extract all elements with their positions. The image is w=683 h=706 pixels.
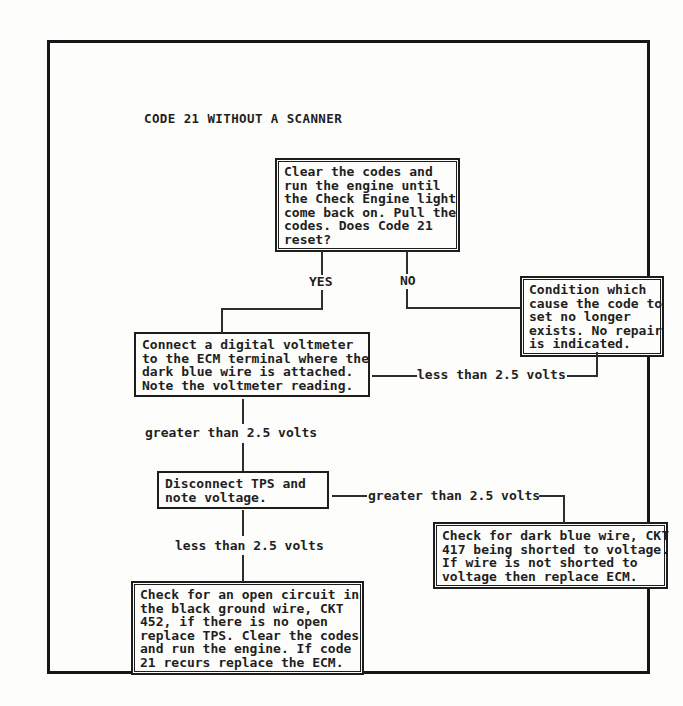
connector-greater1-segment-2	[242, 443, 244, 471]
edge-label-less-than-2: less than 2.5 volts	[175, 539, 324, 553]
connector-no-segment-2	[406, 289, 408, 309]
flow-box-disconnect-tps: Disconnect TPS and note voltage.	[157, 471, 329, 509]
connector-no-segment-1	[406, 251, 408, 274]
diagram-title: CODE 21 WITHOUT A SCANNER	[144, 111, 342, 126]
connector-greater2-segment-2	[539, 495, 565, 497]
flow-box-no-repair: Condition which cause the code to set no…	[520, 276, 664, 357]
connector-less1-segment-3	[596, 352, 598, 377]
flow-box-no-repair-text: Condition which cause the code to set no…	[522, 278, 662, 355]
flow-box-voltmeter-text: Connect a digital voltmeter to the ECM t…	[136, 334, 368, 395]
page-frame: CODE 21 WITHOUT A SCANNER Clear the code…	[47, 40, 650, 674]
edge-label-less-than-1: less than 2.5 volts	[417, 368, 566, 382]
connector-greater1-segment-1	[242, 399, 244, 424]
flow-box-start: Clear the codes and run the engine until…	[275, 158, 460, 252]
edge-label-greater-than-1: greater than 2.5 volts	[145, 426, 317, 440]
connector-no-segment-3	[406, 307, 520, 309]
flow-box-start-text: Clear the codes and run the engine until…	[277, 160, 458, 250]
connector-less1-segment-1	[372, 375, 418, 377]
connector-greater2-segment-3	[563, 495, 565, 523]
scanned-page: CODE 21 WITHOUT A SCANNER Clear the code…	[0, 0, 683, 706]
connector-yes-segment-3	[221, 308, 323, 310]
connector-less1-segment-2	[567, 375, 598, 377]
edge-label-greater-than-2: greater than 2.5 volts	[368, 489, 540, 503]
connector-greater2-segment-1	[332, 495, 367, 497]
connector-yes-segment-1	[321, 251, 323, 275]
connector-less2-segment-2	[242, 555, 244, 582]
connector-less2-segment-1	[242, 510, 244, 536]
connector-yes-segment-2	[321, 290, 323, 309]
flow-box-ckt452-text: Check for an open circuit in the black g…	[133, 583, 362, 673]
edge-label-no: NO	[400, 274, 416, 288]
edge-label-yes: YES	[309, 275, 332, 289]
flow-box-disconnect-tps-text: Disconnect TPS and note voltage.	[159, 473, 327, 507]
flow-box-voltmeter: Connect a digital voltmeter to the ECM t…	[134, 332, 370, 397]
flow-box-ckt417: Check for dark blue wire, CKT 417 being …	[433, 522, 668, 589]
connector-yes-segment-4	[221, 308, 223, 333]
flow-box-ckt417-text: Check for dark blue wire, CKT 417 being …	[435, 524, 666, 587]
flow-box-ckt452: Check for an open circuit in the black g…	[131, 581, 364, 675]
